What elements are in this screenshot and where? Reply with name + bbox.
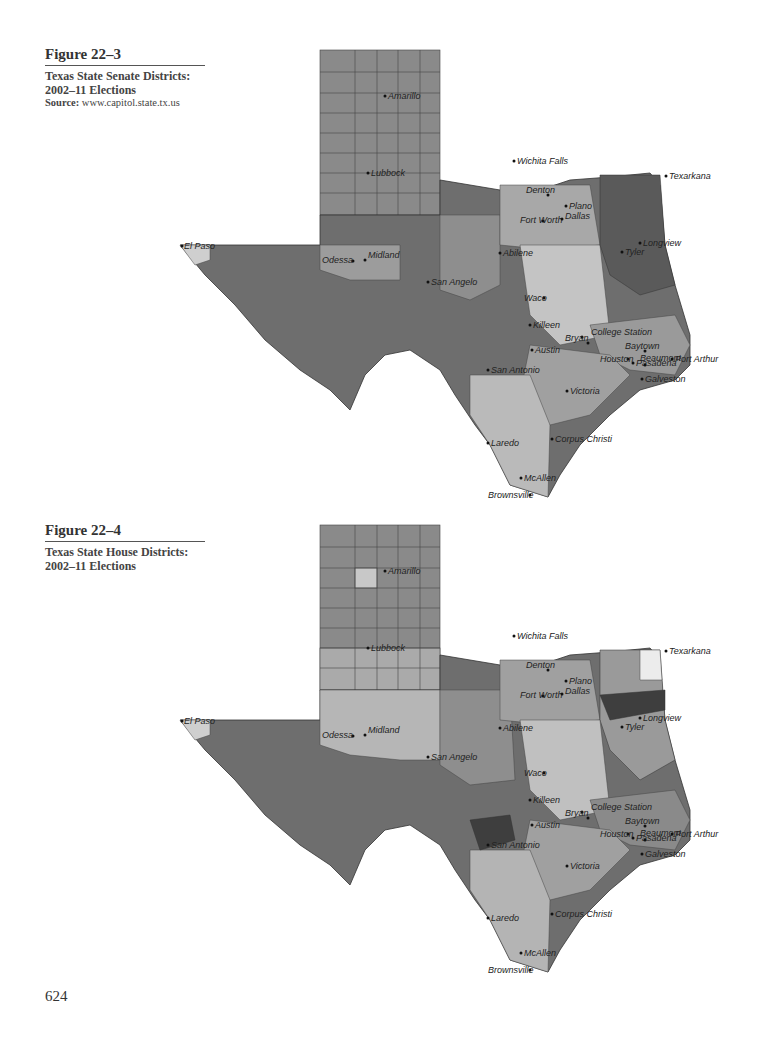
svg-text:Texarkana: Texarkana: [669, 646, 711, 656]
svg-text:Baytown: Baytown: [625, 816, 660, 826]
svg-text:Lubbock: Lubbock: [371, 168, 406, 178]
svg-text:Austin: Austin: [534, 820, 560, 830]
svg-text:Tyler: Tyler: [625, 247, 645, 257]
page-number: 624: [45, 988, 68, 1005]
svg-text:Brownsville: Brownsville: [488, 490, 534, 500]
svg-text:Abilene: Abilene: [502, 248, 533, 258]
central-region: [440, 215, 500, 300]
svg-text:Bryan: Bryan: [565, 333, 589, 343]
svg-text:Denton: Denton: [526, 660, 555, 670]
svg-text:Tyler: Tyler: [625, 722, 645, 732]
svg-text:Laredo: Laredo: [491, 913, 519, 923]
svg-text:San Angelo: San Angelo: [431, 277, 477, 287]
svg-text:Longview: Longview: [643, 238, 682, 248]
svg-text:Amarillo: Amarillo: [387, 566, 421, 576]
svg-text:Killeen: Killeen: [533, 795, 560, 805]
svg-text:Wichita Falls: Wichita Falls: [517, 156, 568, 166]
svg-text:Amarillo: Amarillo: [387, 91, 421, 101]
svg-text:Houston: Houston: [600, 354, 634, 364]
svg-text:Port Arthur: Port Arthur: [675, 829, 719, 839]
svg-text:Port Arthur: Port Arthur: [675, 354, 719, 364]
svg-text:Baytown: Baytown: [625, 341, 660, 351]
svg-text:Austin: Austin: [534, 345, 560, 355]
svg-text:Bryan: Bryan: [565, 808, 589, 818]
svg-text:Plano: Plano: [569, 201, 592, 211]
senate-districts-map: El Paso Odessa Midland San Angelo Abilen…: [170, 45, 730, 500]
svg-text:San Antonio: San Antonio: [491, 840, 540, 850]
svg-text:Waco: Waco: [524, 293, 547, 303]
svg-text:San Angelo: San Angelo: [431, 752, 477, 762]
svg-text:Odessa: Odessa: [322, 730, 353, 740]
svg-text:Galveston: Galveston: [645, 374, 686, 384]
svg-text:Dallas: Dallas: [565, 211, 591, 221]
svg-text:Longview: Longview: [643, 713, 682, 723]
svg-text:Laredo: Laredo: [491, 438, 519, 448]
svg-text:Brownsville: Brownsville: [488, 965, 534, 975]
svg-text:Fort Worth: Fort Worth: [520, 690, 563, 700]
svg-text:Victoria: Victoria: [570, 386, 600, 396]
svg-text:San Antonio: San Antonio: [491, 365, 540, 375]
svg-text:Lubbock: Lubbock: [371, 643, 406, 653]
svg-text:Fort Worth: Fort Worth: [520, 215, 563, 225]
svg-text:Corpus Christi: Corpus Christi: [555, 434, 613, 444]
svg-text:McAllen: McAllen: [524, 948, 556, 958]
svg-text:Denton: Denton: [526, 185, 555, 195]
svg-text:Abilene: Abilene: [502, 723, 533, 733]
svg-text:Houston: Houston: [600, 829, 634, 839]
svg-text:Killeen: Killeen: [533, 320, 560, 330]
svg-text:El Paso: El Paso: [184, 241, 215, 251]
panhandle-counties: [320, 525, 440, 690]
svg-text:Texarkana: Texarkana: [669, 171, 711, 181]
svg-text:El Paso: El Paso: [184, 716, 215, 726]
svg-text:Midland: Midland: [368, 250, 401, 260]
svg-text:Galveston: Galveston: [645, 849, 686, 859]
svg-text:Waco: Waco: [524, 768, 547, 778]
svg-text:College Station: College Station: [591, 802, 652, 812]
svg-text:Plano: Plano: [569, 676, 592, 686]
svg-text:Midland: Midland: [368, 725, 401, 735]
svg-text:Odessa: Odessa: [322, 255, 353, 265]
svg-text:Victoria: Victoria: [570, 861, 600, 871]
panhandle-counties: [320, 50, 440, 215]
svg-text:McAllen: McAllen: [524, 473, 556, 483]
svg-text:College Station: College Station: [591, 327, 652, 337]
svg-text:Dallas: Dallas: [565, 686, 591, 696]
northeast-white: [640, 650, 662, 680]
house-districts-map: El Paso Odessa Midland San Angelo Abilen…: [170, 520, 730, 975]
svg-text:Corpus Christi: Corpus Christi: [555, 909, 613, 919]
svg-text:Wichita Falls: Wichita Falls: [517, 631, 568, 641]
